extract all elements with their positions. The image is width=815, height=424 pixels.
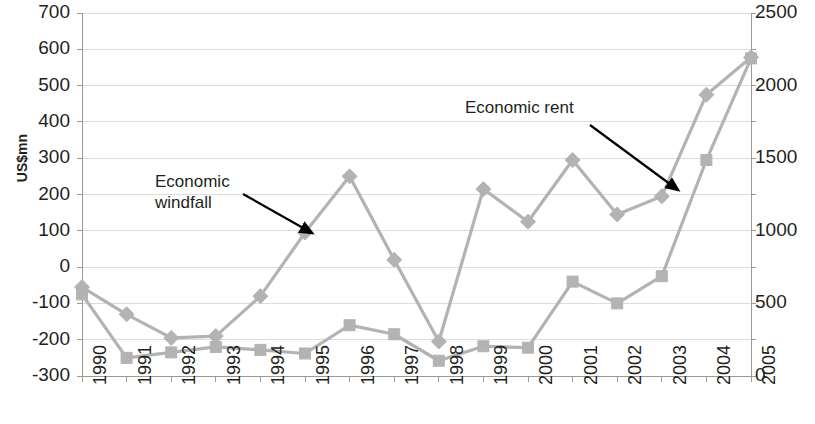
y-axis-left-tick-label: 200 [8, 183, 70, 205]
y-axis-left-tick-label: 500 [8, 74, 70, 96]
y-axis-left-tick-label: 0 [8, 255, 70, 277]
data-point-marker [300, 348, 311, 359]
annotation-arrow-economic-rent [590, 125, 678, 190]
data-point-marker [654, 189, 669, 204]
y-axis-left-tick-label: 100 [8, 219, 70, 241]
data-point-marker [77, 289, 88, 300]
y-axis-left-tick-label: 400 [8, 110, 70, 132]
data-point-marker [119, 307, 134, 322]
data-point-marker [344, 320, 355, 331]
data-point-marker [210, 341, 221, 352]
data-point-marker [255, 344, 266, 355]
y-axis-right-tick-label: 2000 [755, 74, 815, 96]
y-axis-left-tick-label: 300 [8, 146, 70, 168]
data-point-marker [567, 276, 578, 287]
data-point-marker [523, 342, 534, 353]
data-point-marker [433, 355, 444, 366]
y-axis-right-tick-label: 1500 [755, 146, 815, 168]
data-point-marker [166, 347, 177, 358]
y-axis-right-tick-label: 2500 [755, 1, 815, 23]
data-point-marker [478, 341, 489, 352]
data-point-marker [164, 330, 179, 345]
data-point-marker [121, 352, 132, 363]
y-axis-right-tick-label: 1000 [755, 219, 815, 241]
y-axis-left-tick-label: -300 [8, 364, 70, 386]
data-point-marker [389, 329, 400, 340]
data-point-marker [431, 334, 446, 349]
data-point-marker [612, 298, 623, 309]
data-point-marker [701, 155, 712, 166]
annotation-label-economic-windfall: Economic windfall [155, 172, 230, 213]
y-axis-right-tick-label: 500 [755, 291, 815, 313]
y-axis-left-tick-label: 600 [8, 37, 70, 59]
y-axis-left-tick-label: 700 [8, 1, 70, 23]
y-axis-left-tick-label: -200 [8, 328, 70, 350]
data-point-marker [656, 271, 667, 282]
annotation-arrow-economic-windfall [243, 194, 312, 233]
y-axis-left-tick-label: -100 [8, 291, 70, 313]
annotation-label-economic-rent: Economic rent [465, 98, 574, 119]
chart-container: US$mn 7006005004003002001000-100-200-300… [0, 0, 815, 424]
data-point-marker [746, 53, 757, 64]
data-point-marker [387, 252, 402, 267]
